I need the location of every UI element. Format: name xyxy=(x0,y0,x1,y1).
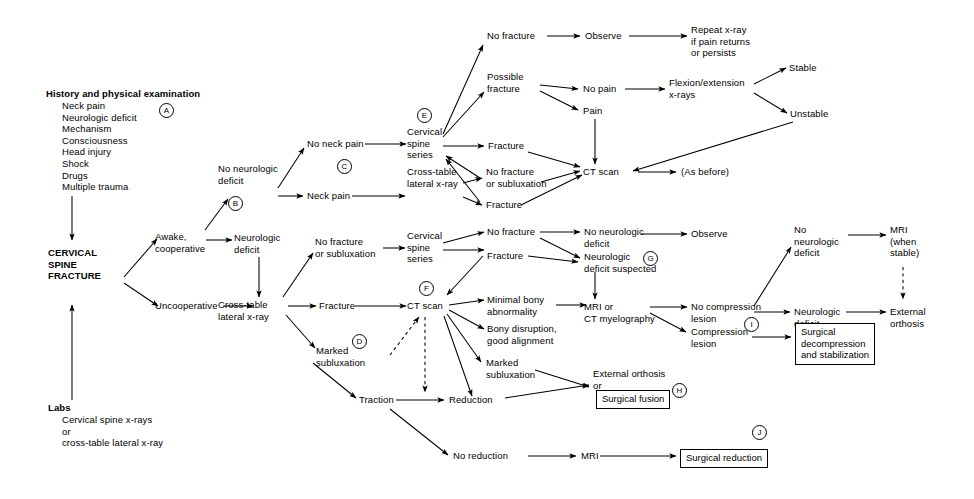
key-node-a[interactable]: A xyxy=(159,103,174,118)
mri-bottom: MRI xyxy=(581,450,599,462)
no-pain: No pain xyxy=(583,83,616,95)
no-neck-pain: No neck pain xyxy=(307,138,364,150)
bony-disruption-good-alignment: Bony disruption, good alignment xyxy=(487,323,557,346)
cross-table-lateral-xray-left: Cross-table lateral x-ray xyxy=(218,299,269,322)
stable: Stable xyxy=(789,62,817,74)
no-neurologic-deficit-g: No neurologic deficit xyxy=(584,226,644,249)
surgical-decompression-box: Surgical decompression and stabilization xyxy=(795,323,875,365)
flowchart-canvas: History and physical examination Neck pa… xyxy=(0,0,974,499)
fracture-f: Fracture xyxy=(319,300,355,312)
cervical-spine-series-2: Cervical spine series xyxy=(407,230,442,265)
no-reduction: No reduction xyxy=(453,450,508,462)
surgical-fusion-box: Surgical fusion xyxy=(596,390,670,409)
key-node-j[interactable]: J xyxy=(752,425,767,440)
as-before: (As before) xyxy=(681,166,729,178)
marked-subluxation-2: Marked subluxation xyxy=(486,357,535,380)
history-heading: History and physical examination xyxy=(46,88,200,100)
cross-table-lateral-xray-2: Cross-table lateral x-ray xyxy=(407,166,458,189)
possible-fracture: Possible fracture xyxy=(487,71,524,94)
labs-items: Cervical spine x-rays or cross-table lat… xyxy=(62,414,163,449)
fracture-e2: Fracture xyxy=(486,199,522,211)
no-fracture-top: No fracture xyxy=(487,30,535,42)
key-node-b[interactable]: B xyxy=(228,196,243,211)
pain: Pain xyxy=(583,105,602,117)
surgical-reduction-box: Surgical reduction xyxy=(680,449,768,468)
mri-or-ct-myelography: MRI or CT myelography xyxy=(584,301,655,324)
minimal-bony-abnormality: Minimal bony abnormality xyxy=(487,294,544,317)
key-node-h[interactable]: H xyxy=(672,383,687,398)
flexion-extension-xrays: Flexion/extension x-rays xyxy=(669,77,745,100)
key-node-c[interactable]: C xyxy=(337,159,352,174)
ct-scan-mid: CT scan xyxy=(407,300,443,312)
neck-pain: Neck pain xyxy=(307,190,350,202)
external-orthosis-right: External orthosis xyxy=(890,306,926,329)
no-neurologic-deficit: No neurologic deficit xyxy=(218,163,278,186)
fracture-e1: Fracture xyxy=(488,140,524,152)
external-orthosis-or: External orthosis or xyxy=(593,368,665,391)
cervical-spine-series-1: Cervical spine series xyxy=(407,126,442,161)
key-node-f[interactable]: F xyxy=(419,281,434,296)
ct-scan-top: CT scan xyxy=(583,166,619,178)
neurologic-deficit-suspected: Neurologic deficit suspected xyxy=(584,251,656,274)
compression-lesion: Compression lesion xyxy=(691,326,748,349)
neurologic-deficit: Neurologic deficit xyxy=(234,232,280,255)
marked-subluxation-f: Marked subluxation xyxy=(316,345,365,368)
no-fracture-or-subluxation-f: No fracture or subluxation xyxy=(315,236,376,259)
reduction: Reduction xyxy=(449,394,493,406)
awake-cooperative: Awake, cooperative xyxy=(155,231,205,254)
root-node: CERVICAL SPINE FRACTURE xyxy=(48,247,101,282)
fracture-g: Fracture xyxy=(487,250,523,262)
no-fracture-g: No fracture xyxy=(487,226,535,238)
uncooperative: Uncooperative xyxy=(155,300,218,312)
repeat-xray-if-pain-returns: Repeat x-ray if pain returns or persists xyxy=(691,24,750,59)
no-neurologic-deficit-right: No neurologic deficit xyxy=(794,224,839,259)
labs-heading: Labs xyxy=(48,402,71,414)
observe-top: Observe xyxy=(585,30,622,42)
mri-when-stable: MRI (when stable) xyxy=(890,224,919,259)
history-items: Neck pain Neurologic deficit Mechanism C… xyxy=(62,100,137,193)
traction: Traction xyxy=(359,394,394,406)
unstable: Unstable xyxy=(790,108,828,120)
no-fracture-or-subluxation-e: No fracture or subluxation xyxy=(486,166,547,189)
key-node-e[interactable]: E xyxy=(417,108,432,123)
observe-mid: Observe xyxy=(691,228,728,240)
